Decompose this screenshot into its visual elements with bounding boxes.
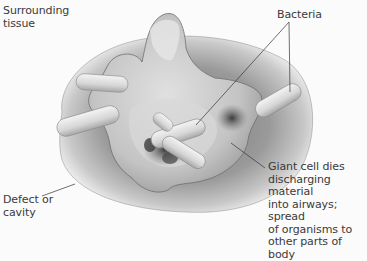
- label-surrounding-tissue: Surrounding tissue: [3, 5, 69, 30]
- label-defect-cavity: Defect or cavity: [3, 194, 53, 219]
- label-bacteria: Bacteria: [277, 9, 322, 22]
- label-giant-cell: Giant cell dies discharging material int…: [268, 161, 367, 261]
